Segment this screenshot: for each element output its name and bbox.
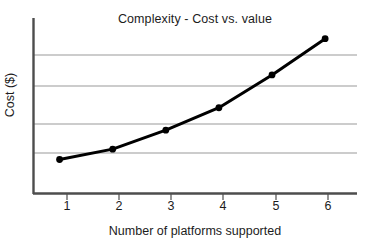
data-point (269, 72, 276, 79)
x-tick-label-4: 4 (208, 199, 238, 213)
data-point (162, 127, 169, 134)
data-point (216, 104, 223, 111)
data-line-cost (60, 39, 326, 160)
x-tick-label-2: 2 (104, 199, 134, 213)
x-tick-label-3: 3 (156, 199, 186, 213)
plot-area (0, 0, 369, 251)
data-point (56, 156, 63, 163)
chart-container: Complexity - Cost vs. value Cost ($) Num… (0, 0, 369, 251)
data-point (109, 146, 116, 153)
gridlines (33, 55, 357, 153)
data-point (322, 35, 329, 42)
x-tick-label-1: 1 (52, 199, 82, 213)
x-tick-label-6: 6 (313, 199, 343, 213)
x-tick-label-5: 5 (261, 199, 291, 213)
